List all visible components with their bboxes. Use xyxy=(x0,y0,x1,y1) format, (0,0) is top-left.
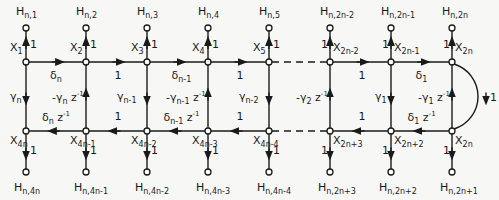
output-node-top xyxy=(266,25,272,31)
node-bottom xyxy=(266,128,272,134)
branch-gain: 1 xyxy=(90,145,97,156)
top-edge-gain: δn-1 xyxy=(172,70,192,84)
output-node-bottom xyxy=(449,169,455,175)
output-node-top xyxy=(83,25,89,31)
branch-gain: 1 xyxy=(273,39,280,50)
node-label-top: X1 xyxy=(10,42,23,56)
output-node-top xyxy=(449,25,455,31)
branch-gain: 1 xyxy=(382,39,389,50)
output-label-top: Hn,4 xyxy=(198,6,219,20)
node-label-top: X2n xyxy=(455,42,473,56)
node-label-bottom: X2n+2 xyxy=(394,135,424,149)
output-label-top: Hn,2n-1 xyxy=(381,6,415,20)
node-bottom xyxy=(144,128,150,134)
vertical-edge-gain: -γ1 z-1 xyxy=(418,91,450,106)
vertical-edge-gain: γn xyxy=(10,91,22,105)
vertical-edge-gain: -γn-1 z-1 xyxy=(166,91,206,106)
top-edge-gain: δn xyxy=(50,70,62,84)
branch-gain: 1 xyxy=(321,39,328,50)
output-label-bottom: Hn,2n+1 xyxy=(440,182,478,196)
node-label-top: X2n-1 xyxy=(394,42,420,56)
output-label-top: Hn,2 xyxy=(76,6,97,20)
branch-gain: 1 xyxy=(443,39,450,50)
node-top xyxy=(327,59,333,65)
branch-gain: 1 xyxy=(212,145,219,156)
output-label-bottom: Hn,4n xyxy=(14,182,40,196)
branch-gain: 1 xyxy=(30,39,37,50)
node-bottom xyxy=(205,128,211,134)
node-label-bottom: X2n+3 xyxy=(333,135,363,149)
output-node-bottom xyxy=(266,169,272,175)
bottom-edge-gain: 1 xyxy=(359,111,366,122)
bottom-edge-gain: δn-1 z-1 xyxy=(164,111,200,126)
branch-gain: 1 xyxy=(382,145,389,156)
node-bottom xyxy=(23,128,29,134)
output-node-bottom xyxy=(205,169,211,175)
output-node-bottom xyxy=(144,169,150,175)
branch-gain: 1 xyxy=(90,39,97,50)
feedback-arc xyxy=(454,64,478,129)
node-top xyxy=(144,59,150,65)
node-top xyxy=(388,59,394,65)
output-label-top: Hn,1 xyxy=(16,6,37,20)
branch-gain: 1 xyxy=(151,145,158,156)
branch-gain: 1 xyxy=(321,145,328,156)
output-label-top: Hn,3 xyxy=(137,6,158,20)
output-node-bottom xyxy=(23,169,29,175)
output-label-bottom: Hn,4n-4 xyxy=(257,182,291,196)
bottom-edge-gain: δ1 z-1 xyxy=(408,111,436,126)
output-node-top xyxy=(23,25,29,31)
top-edge-gain: 1 xyxy=(237,70,244,81)
node-label-bottom: X4n xyxy=(10,135,28,149)
vertical-edge-gain: γn-2 xyxy=(239,91,259,105)
node-label-top: X2n-2 xyxy=(333,42,359,56)
output-node-top xyxy=(205,25,211,31)
output-label-top: Hn,2n-2 xyxy=(320,6,354,20)
node-top xyxy=(205,59,211,65)
vertical-edge-gain: γ1 xyxy=(375,91,387,105)
output-node-bottom xyxy=(83,169,89,175)
output-label-bottom: Hn,2n+3 xyxy=(318,182,356,196)
bottom-edge-gain: 1 xyxy=(237,111,244,122)
output-label-top: Hn,2n xyxy=(442,6,468,20)
top-edge-gain: δ1 xyxy=(416,70,428,84)
output-node-bottom xyxy=(327,169,333,175)
feedback-arc-gain: 1 xyxy=(490,92,497,103)
branch-gain: 1 xyxy=(443,145,450,156)
output-label-bottom: Hn,4n-3 xyxy=(196,182,230,196)
branch-gain: 1 xyxy=(151,39,158,50)
output-label-bottom: Hn,4n-2 xyxy=(135,182,169,196)
top-edge-gain: 1 xyxy=(359,70,366,81)
output-node-top xyxy=(327,25,333,31)
output-label-top: Hn,5 xyxy=(259,6,280,20)
bottom-edge-gain: 1 xyxy=(115,111,122,122)
output-label-bottom: Hn,4n-1 xyxy=(74,182,108,196)
vertical-edge-gain: -γ2 z-1 xyxy=(296,91,328,106)
vertical-edge-gain: γn-1 xyxy=(117,91,137,105)
vertical-edge-gain: -γn z-1 xyxy=(52,91,84,106)
output-label-bottom: Hn,2n+2 xyxy=(379,182,417,196)
node-label-top: X2 xyxy=(70,42,83,56)
node-top xyxy=(23,59,29,65)
output-node-top xyxy=(388,25,394,31)
node-bottom xyxy=(83,128,89,134)
branch-gain: 1 xyxy=(273,145,280,156)
output-node-top xyxy=(144,25,150,31)
branch-gain: 1 xyxy=(30,145,37,156)
node-label-top: X4 xyxy=(192,42,205,56)
node-top xyxy=(83,59,89,65)
node-top xyxy=(266,59,272,65)
node-label-top: X3 xyxy=(131,42,144,56)
node-top xyxy=(449,59,455,65)
output-node-bottom xyxy=(388,169,394,175)
top-edge-gain: 1 xyxy=(115,70,122,81)
node-label-bottom: X2n xyxy=(455,135,473,149)
bottom-edge-gain: δn z-1 xyxy=(42,111,70,126)
branch-gain: 1 xyxy=(212,39,219,50)
node-label-top: X5 xyxy=(253,42,266,56)
